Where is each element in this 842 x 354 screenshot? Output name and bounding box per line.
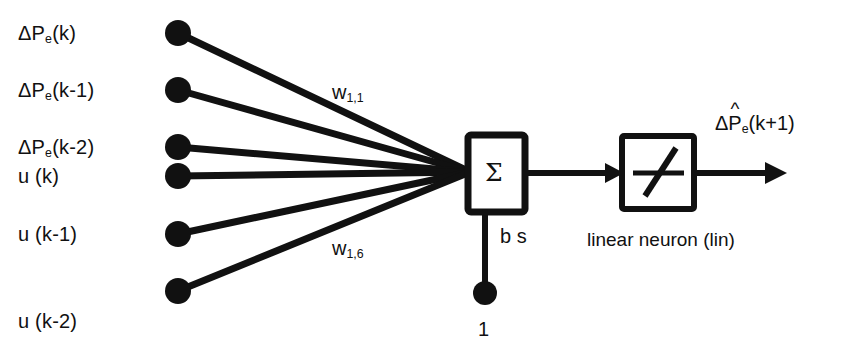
weight-label-first: w1,1 xyxy=(332,82,364,105)
weight-label-last-symbol: w xyxy=(332,237,346,259)
connection-line-4 xyxy=(178,172,470,176)
output-label-hat-wrap: P^ xyxy=(728,113,741,133)
output-label: ΔP^e(k+1) xyxy=(715,113,795,136)
summation-symbol: Σ xyxy=(485,160,503,185)
input-nodes xyxy=(165,20,191,304)
output-hat-icon: ^ xyxy=(731,99,740,118)
input-node-1 xyxy=(165,20,191,46)
input-label-3-base: ΔP xyxy=(18,136,45,158)
connection-line-6 xyxy=(178,172,470,291)
bias-label: b s xyxy=(500,226,527,246)
activation-caption: linear neuron (lin) xyxy=(587,230,735,249)
connection-line-5 xyxy=(178,172,470,234)
input-label-3-suffix: (k-2) xyxy=(52,136,94,158)
output-label-suffix: (k+1) xyxy=(749,112,795,134)
input-label-2-base: ΔP xyxy=(18,79,45,101)
figure-canvas: Σ ΔPe(k) ΔPe(k-1) ΔPe(k-2) u (k) u (k-1)… xyxy=(0,0,842,354)
input-label-5: u (k-1) xyxy=(18,224,77,244)
output-arrowhead xyxy=(765,162,787,184)
output-label-subscript: e xyxy=(742,122,749,136)
input-label-4: u (k) xyxy=(18,166,59,186)
input-node-4 xyxy=(165,163,191,189)
bias-source-value: 1 xyxy=(478,319,489,339)
output-label-delta: Δ xyxy=(715,112,728,134)
input-node-6 xyxy=(165,278,191,304)
weight-label-first-symbol: w xyxy=(332,81,346,103)
weight-label-first-subscript: 1,1 xyxy=(346,91,363,105)
input-label-6: u (k-2) xyxy=(18,311,77,331)
weight-connections xyxy=(178,33,470,291)
input-label-2: ΔPe(k-1) xyxy=(18,80,94,103)
input-label-3: ΔPe(k-2) xyxy=(18,137,94,160)
weight-label-last: w1,6 xyxy=(332,238,364,261)
input-label-2-suffix: (k-1) xyxy=(52,79,94,101)
input-node-3 xyxy=(165,134,191,160)
sum-to-activation-arrow xyxy=(527,163,624,183)
bias-node xyxy=(473,281,497,305)
output-arrow xyxy=(694,162,787,184)
input-label-1: ΔPe(k) xyxy=(18,23,76,46)
input-label-1-suffix: (k) xyxy=(52,22,76,44)
input-node-5 xyxy=(165,221,191,247)
input-node-2 xyxy=(165,77,191,103)
input-label-1-base: ΔP xyxy=(18,22,45,44)
neural-network-diagram xyxy=(0,0,842,354)
weight-label-last-subscript: 1,6 xyxy=(346,247,363,261)
